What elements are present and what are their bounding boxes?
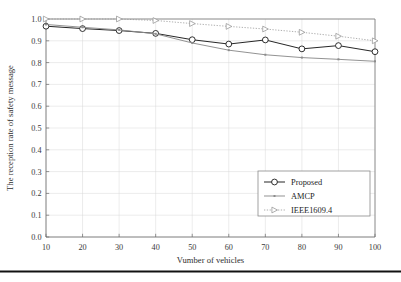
marker-circle: [272, 179, 278, 185]
y-tick-label: 1.0: [31, 15, 41, 24]
legend-label-amcp: AMCP: [291, 192, 315, 201]
x-tick-label: 40: [152, 243, 160, 252]
marker-dot: [274, 195, 276, 197]
y-tick-label: 0.4: [31, 146, 41, 155]
y-axis-title: The reception rate of safety message: [5, 65, 15, 191]
chart-legend: ProposedAMCPIEEE1609.4: [258, 171, 370, 216]
marker-circle: [336, 43, 342, 49]
chart-background: [0, 0, 401, 282]
marker-dot: [45, 23, 47, 25]
y-tick-label: 0.5: [31, 124, 41, 133]
marker-dot: [337, 58, 339, 60]
x-tick-label: 60: [225, 243, 233, 252]
x-tick-label: 30: [115, 243, 123, 252]
marker-dot: [228, 49, 230, 51]
y-tick-label: 0.0: [31, 233, 41, 242]
y-tick-label: 0.7: [31, 80, 41, 89]
y-tick-label: 0.9: [31, 37, 41, 46]
marker-circle: [262, 37, 268, 43]
marker-dot: [264, 54, 266, 56]
x-tick-label: 70: [261, 243, 269, 252]
legend-label-proposed: Proposed: [291, 178, 323, 187]
marker-circle: [189, 37, 195, 43]
marker-circle: [372, 49, 378, 55]
marker-dot: [301, 57, 303, 59]
marker-dot: [191, 42, 193, 44]
marker-circle: [299, 46, 305, 52]
x-axis-title: Vumber of vehicles: [177, 255, 245, 265]
x-tick-label: 50: [188, 243, 196, 252]
marker-dot: [374, 60, 376, 62]
x-tick-label: 20: [78, 243, 86, 252]
x-tick-label: 10: [42, 243, 50, 252]
x-tick-label: 80: [298, 243, 306, 252]
y-tick-label: 0.2: [31, 189, 41, 198]
figure-container: 0.00.10.20.30.40.50.60.70.80.91.0 102030…: [0, 0, 401, 282]
y-tick-label: 0.3: [31, 168, 41, 177]
marker-circle: [226, 41, 232, 47]
x-tick-label: 90: [334, 243, 342, 252]
y-tick-label: 0.1: [31, 211, 41, 220]
y-tick-label: 0.6: [31, 102, 41, 111]
marker-dot: [155, 33, 157, 35]
reception-rate-line-chart: 0.00.10.20.30.40.50.60.70.80.91.0 102030…: [0, 0, 401, 282]
marker-dot: [118, 29, 120, 31]
legend-label-ieee1609-4: IEEE1609.4: [291, 206, 333, 215]
marker-dot: [82, 26, 84, 28]
y-tick-label: 0.8: [31, 59, 41, 68]
x-tick-label: 100: [369, 243, 381, 252]
